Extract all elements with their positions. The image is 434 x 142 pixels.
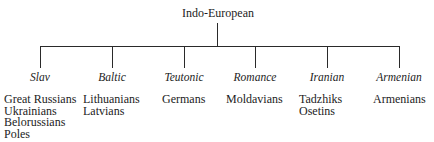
- branch-drop-line: [255, 47, 256, 68]
- member-list: Armenians: [373, 94, 434, 106]
- branch-drop-line: [184, 47, 185, 68]
- branch-label: Armenian: [354, 70, 434, 84]
- member-item: Armenians: [373, 94, 434, 106]
- branch-drop-line: [399, 47, 400, 68]
- branch-drop-line: [327, 47, 328, 68]
- branch-drop-line: [40, 47, 41, 68]
- branch-drop-line: [112, 47, 113, 68]
- branch-armenian: Armenian Armenians: [354, 0, 434, 142]
